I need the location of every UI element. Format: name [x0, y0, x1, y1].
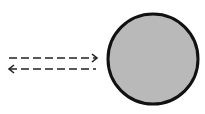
- body-circle: [108, 14, 198, 104]
- diagram-svg: [0, 0, 205, 114]
- diagram-canvas: [0, 0, 205, 114]
- outgoing-arrow: [9, 65, 96, 73]
- incoming-arrow: [9, 54, 97, 62]
- arrows-group: [9, 54, 97, 73]
